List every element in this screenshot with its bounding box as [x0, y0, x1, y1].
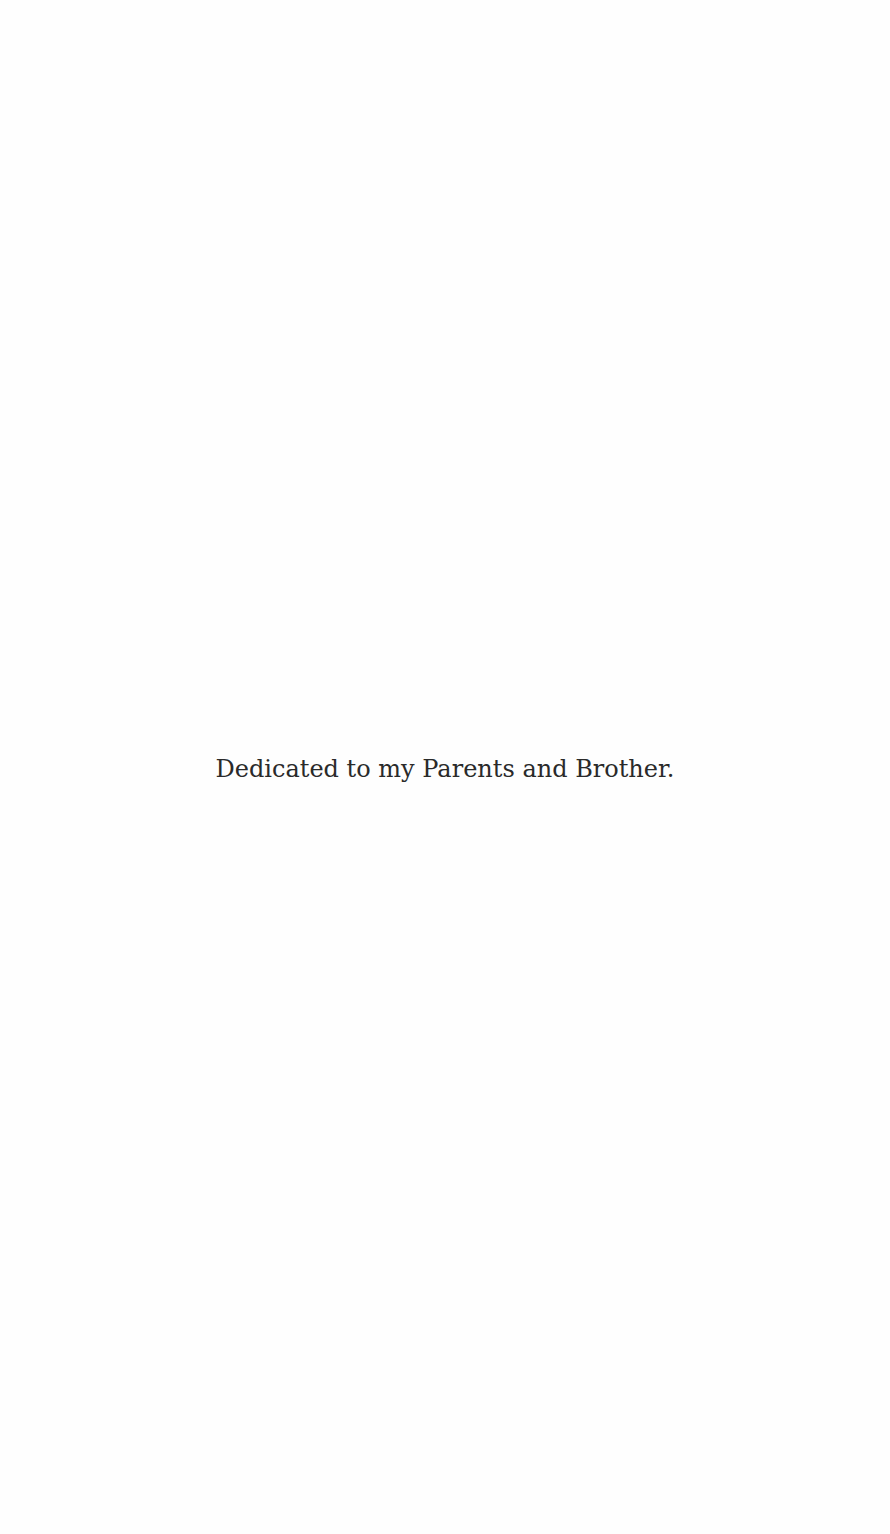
dedication-text: Dedicated to my Parents and Brother.: [0, 752, 890, 786]
document-page: Dedicated to my Parents and Brother.: [0, 0, 890, 1534]
